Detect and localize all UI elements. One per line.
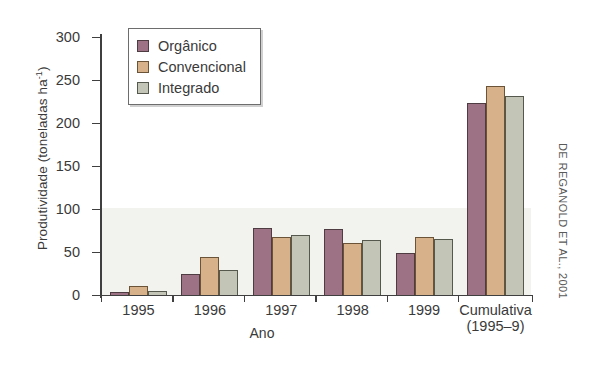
y-tick-label-250: 250 <box>56 72 80 88</box>
bar-1997-orgânico[interactable] <box>253 228 272 295</box>
y-tick-300: 300 <box>92 37 100 38</box>
x-axis-title-text: Ano <box>250 325 275 341</box>
source-credit: DE REGANOLD ET AL., 2001 <box>557 143 569 333</box>
y-axis-title: Produtividade (toneladas ha-1) <box>34 28 51 288</box>
legend-swatch-orgânico <box>137 40 149 52</box>
y-tick-100: 100 <box>92 209 100 210</box>
bar-1996-convencional[interactable] <box>200 257 219 295</box>
legend-label-orgânico: Orgânico <box>158 38 217 54</box>
legend: OrgânicoConvencionalIntegrado <box>128 28 261 105</box>
y-tick-150: 150 <box>92 166 100 167</box>
y-tick-label-0: 0 <box>72 287 80 303</box>
bar-1998-orgânico[interactable] <box>324 229 343 295</box>
bar-1995-convencional[interactable] <box>129 286 148 295</box>
legend-item-orgânico[interactable]: Orgânico <box>137 35 246 56</box>
bar-group-1998 <box>324 37 381 295</box>
x-tick-4 <box>387 295 388 302</box>
x-axis-title: Ano <box>0 325 600 341</box>
x-label-line1: Cumulativa <box>459 302 532 318</box>
bar-1999-integrado[interactable] <box>434 239 453 295</box>
legend-label-convencional: Convencional <box>158 59 246 75</box>
y-tick-label-100: 100 <box>56 201 80 217</box>
bar-cumulativa-convencional[interactable] <box>486 86 505 295</box>
x-tick-2 <box>244 295 245 302</box>
bar-cumulativa-orgânico[interactable] <box>467 103 486 295</box>
y-tick-label-200: 200 <box>56 115 80 131</box>
legend-item-integrado[interactable]: Integrado <box>137 77 246 98</box>
x-tick-3 <box>315 295 316 302</box>
bar-1995-integrado[interactable] <box>148 291 167 295</box>
legend-swatch-integrado <box>137 82 149 94</box>
y-tick-label-150: 150 <box>56 158 80 174</box>
x-tick-5 <box>458 295 459 302</box>
y-tick-label-300: 300 <box>56 29 80 45</box>
bar-1996-orgânico[interactable] <box>181 274 200 296</box>
bar-1998-integrado[interactable] <box>362 240 381 295</box>
y-axis-title-suffix: ) <box>35 66 50 71</box>
bar-cumulativa-integrado[interactable] <box>505 96 524 295</box>
y-tick-250: 250 <box>92 80 100 81</box>
x-tick-end <box>532 295 533 302</box>
legend-item-convencional[interactable]: Convencional <box>137 56 246 77</box>
x-tick-0 <box>101 295 102 302</box>
bar-group-cumulativa <box>467 37 524 295</box>
bar-1995-orgânico[interactable] <box>110 292 129 295</box>
bar-1998-convencional[interactable] <box>343 243 362 295</box>
bar-chart-figure: Produtividade (toneladas ha-1) 050100150… <box>0 0 600 369</box>
y-tick-label-50: 50 <box>64 244 80 260</box>
legend-label-integrado: Integrado <box>158 80 219 96</box>
bar-1999-orgânico[interactable] <box>396 253 415 295</box>
y-tick-0: 0 <box>92 295 100 296</box>
bar-1999-convencional[interactable] <box>415 237 434 295</box>
y-tick-200: 200 <box>92 123 100 124</box>
y-axis-title-text: Produtividade (toneladas ha <box>35 79 50 250</box>
bar-group-1999 <box>396 37 453 295</box>
legend-swatch-convencional <box>137 61 149 73</box>
bar-1996-integrado[interactable] <box>219 270 238 295</box>
x-tick-1 <box>172 295 173 302</box>
y-tick-50: 50 <box>92 252 100 253</box>
bar-group-1997 <box>253 37 310 295</box>
y-axis-title-exponent: -1 <box>34 71 44 79</box>
bar-1997-convencional[interactable] <box>272 237 291 295</box>
bar-1997-integrado[interactable] <box>291 235 310 295</box>
